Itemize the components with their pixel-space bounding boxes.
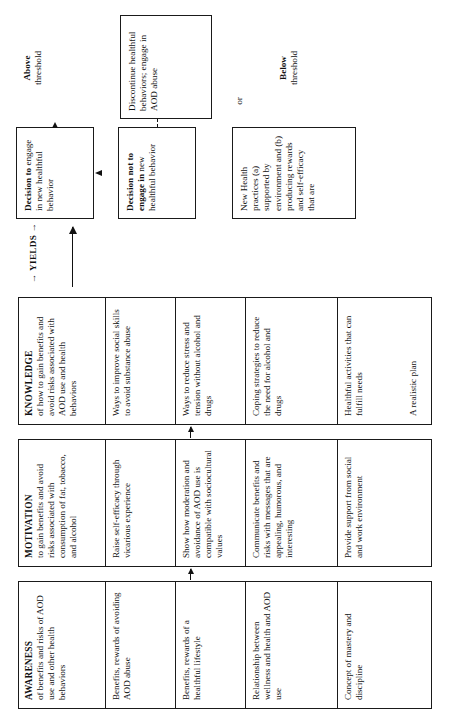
new-health-practices-text: New Health practices (a) supported by en… (239, 136, 316, 211)
above-threshold-label: Above threshold (22, 31, 44, 105)
category-sub-label: to gain benefits and avoid risks associa… (35, 448, 79, 558)
category-item: Show how moderation and avoidance of AOD… (175, 440, 245, 566)
category-head-label: KNOWLEDGE (24, 306, 35, 416)
category-item: Provide support from social and work env… (337, 440, 433, 566)
outcome-negative-text: Discontinue healthful behaviors; engage … (127, 32, 159, 111)
diagram-canvas: AWARENESS of benefits and risks of AOD u… (0, 0, 450, 719)
category-header-awareness: AWARENESS of benefits and risks of AOD u… (19, 582, 105, 708)
above-threshold-rest: threshold (33, 51, 43, 85)
outcome-negative-box: Discontinue healthful behaviors; engage … (120, 15, 212, 119)
category-column-motivation: MOTIVATION to gain benefits and avoid ri… (18, 439, 432, 567)
category-header-knowledge: KNOWLEDGE of how to gain benefits and av… (19, 298, 105, 424)
decision-no-box: Decision not to engage in new healthful … (118, 127, 196, 219)
or-label: or (234, 83, 245, 119)
category-head-label: AWARENESS (24, 590, 35, 700)
decision-yes-bold: Decision to (23, 168, 33, 211)
category-item: A realistic plan (403, 298, 433, 424)
arrow-awareness-to-motivation (190, 569, 191, 580)
new-health-practices-box: New Health practices (a) supported by en… (232, 127, 356, 219)
category-item: Healthful activities that can fulfill ne… (337, 298, 403, 424)
category-column-awareness: AWARENESS of benefits and risks of AOD u… (18, 581, 432, 709)
category-column-knowledge: KNOWLEDGE of how to gain benefits and av… (18, 297, 432, 425)
category-item: Relationship between wellness and health… (245, 582, 337, 708)
below-threshold-label: Below threshold (278, 31, 300, 105)
category-item: Concept of mastery and discipline (337, 582, 433, 708)
feedback-dashed-connector (157, 119, 158, 127)
above-threshold-bold: Above (22, 56, 32, 81)
category-item: Communicate benefits and risks with mess… (245, 440, 337, 566)
category-item: Benefits, rewards of a healthful lifesty… (175, 582, 245, 708)
category-sub-label: of benefits and risks of AOD use and oth… (35, 590, 68, 700)
category-item: Raise self-efficacy through vicarious ex… (105, 440, 175, 566)
category-item: Ways to improve social skills to avoid s… (105, 298, 175, 424)
diagram-stage: AWARENESS of benefits and risks of AOD u… (0, 0, 450, 719)
arrow-yields (72, 227, 73, 287)
arrow-motivation-to-knowledge (190, 427, 191, 438)
category-item: Coping strategies to reduce the need for… (245, 298, 337, 424)
category-head-label: MOTIVATION (24, 448, 35, 558)
category-item: Benefits, rewards of avoiding AOD abuse (105, 582, 175, 708)
category-item: Ways to reduce stress and tension withou… (175, 298, 245, 424)
category-sub-label: of how to gain benefits and avoid risks … (35, 306, 79, 416)
below-threshold-rest: threshold (289, 51, 299, 85)
decision-yes-box: Decision to engage in new healthful beha… (16, 127, 94, 219)
yields-label: → YIELDS → (28, 223, 38, 283)
below-threshold-bold: Below (278, 56, 288, 80)
category-header-motivation: MOTIVATION to gain benefits and avoid ri… (19, 440, 105, 566)
